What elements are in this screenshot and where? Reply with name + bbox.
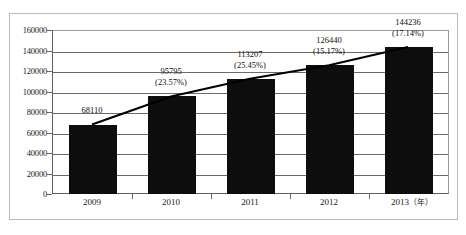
data-growth-2012: (15.17%) xyxy=(313,46,345,57)
bar-2012[interactable] xyxy=(306,65,354,194)
data-value-2009: 68110 xyxy=(82,105,103,115)
data-label-2010: 95795 (23.57%) xyxy=(155,66,187,87)
y-axis-label-60000: 60000 xyxy=(1,128,47,137)
x-tick-mark xyxy=(132,194,133,199)
data-label-2009: 68110 xyxy=(82,105,103,116)
x-axis-label-2013-year: 2013 xyxy=(391,197,409,207)
y-tick-mark xyxy=(47,51,52,52)
y-tick-mark xyxy=(47,153,52,154)
x-tick-mark xyxy=(211,194,212,199)
y-axis-label-160000: 160000 xyxy=(1,26,47,35)
y-axis-label-120000: 120000 xyxy=(1,67,47,76)
x-axis-label-2011: 2011 xyxy=(241,198,259,208)
data-growth-2011: (25.45%) xyxy=(234,60,266,71)
y-axis-label-20000: 20000 xyxy=(1,169,47,178)
bar-2011[interactable] xyxy=(227,79,275,194)
y-tick-mark xyxy=(47,71,52,72)
bar-2013[interactable] xyxy=(385,47,433,194)
data-value-2010: 95795 xyxy=(160,66,181,76)
data-growth-2010: (23.57%) xyxy=(155,77,187,88)
x-axis-label-2012: 2012 xyxy=(320,198,338,208)
y-tick-mark xyxy=(47,133,52,134)
data-label-2012: 126440 (15.17%) xyxy=(313,35,345,56)
data-label-2013: 144236 (17.14%) xyxy=(392,17,424,38)
data-value-2012: 126440 xyxy=(316,35,342,45)
y-tick-mark xyxy=(47,174,52,175)
bar-2009[interactable] xyxy=(69,125,117,194)
x-axis-label-2010: 2010 xyxy=(162,198,180,208)
x-tick-mark xyxy=(369,194,370,199)
y-tick-mark xyxy=(47,92,52,93)
y-tick-mark xyxy=(47,194,52,195)
y-axis-label-100000: 100000 xyxy=(1,87,47,96)
data-value-2013: 144236 xyxy=(395,17,421,27)
y-axis-label-40000: 40000 xyxy=(1,149,47,158)
y-tick-mark xyxy=(47,112,52,113)
y-axis-label-140000: 140000 xyxy=(1,46,47,55)
data-growth-2013: (17.14%) xyxy=(392,28,424,39)
x-axis-label-2013: 2013（年） xyxy=(391,198,433,208)
chart-figure: 160000 140000 120000 100000 80000 60000 … xyxy=(0,0,466,235)
data-label-2011: 113207 (25.45%) xyxy=(234,49,266,70)
x-axis-unit-label: （年） xyxy=(409,198,433,207)
bar-2010[interactable] xyxy=(148,96,196,194)
data-value-2011: 113207 xyxy=(237,49,262,59)
y-tick-mark xyxy=(47,30,52,31)
y-axis-label-80000: 80000 xyxy=(1,108,47,117)
x-tick-mark xyxy=(290,194,291,199)
y-axis-label-0: 0 xyxy=(1,190,47,199)
x-axis-label-2009: 2009 xyxy=(83,198,101,208)
